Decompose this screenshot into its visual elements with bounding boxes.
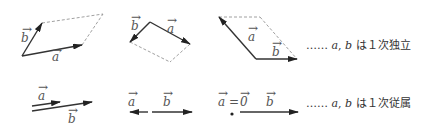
- vec-arrow-b: →: [272, 36, 282, 50]
- caption-sep: ,: [338, 39, 342, 52]
- parallelogram-2: b → a →: [130, 10, 190, 62]
- parallelogram-3: a → b →: [219, 17, 297, 59]
- caption-text: は１次独立: [356, 39, 411, 52]
- dashed-side: [82, 14, 103, 45]
- parallel-same-direction: a → b →: [32, 80, 92, 124]
- vector-b-arrow: [32, 102, 92, 111]
- vec-arrow-b: →: [68, 103, 78, 117]
- vec-arrow-a: →: [167, 13, 177, 27]
- caption-dependent: …… a, b は１次従属: [306, 94, 411, 110]
- vec-arrow-a: →: [128, 86, 138, 100]
- caption-dots: ……: [306, 39, 328, 52]
- opposite-direction: a → b →: [128, 86, 192, 112]
- vec-arrow-b: →: [163, 86, 173, 100]
- vec-arrow-b: →: [131, 10, 141, 24]
- caption-vec-b: b: [345, 39, 352, 52]
- dashed-side: [130, 42, 170, 62]
- vector-a-arrow: [32, 102, 60, 106]
- a-is-zero: a → = 0 → b →: [218, 86, 298, 116]
- vec-arrow-a: →: [218, 86, 228, 100]
- vec-arrow-zero: →: [240, 86, 250, 100]
- vec-arrow-b: →: [266, 86, 276, 100]
- vec-arrow-a: →: [248, 21, 258, 35]
- zero-vector-dot: [230, 112, 233, 115]
- parallelogram-1: b → a →: [21, 14, 103, 64]
- caption-vec-b: b: [345, 97, 352, 110]
- caption-dots: ……: [306, 97, 328, 110]
- vec-arrow-a: →: [38, 80, 48, 94]
- caption-independent: …… a, b は１次独立: [306, 36, 411, 52]
- dashed-side: [170, 44, 190, 62]
- equals-sign: =: [229, 95, 239, 109]
- vec-arrow-b: →: [22, 22, 32, 36]
- vec-arrow-a: →: [52, 43, 62, 57]
- dashed-side: [42, 14, 103, 23]
- caption-sep: ,: [338, 97, 342, 110]
- caption-text: は１次従属: [356, 97, 411, 110]
